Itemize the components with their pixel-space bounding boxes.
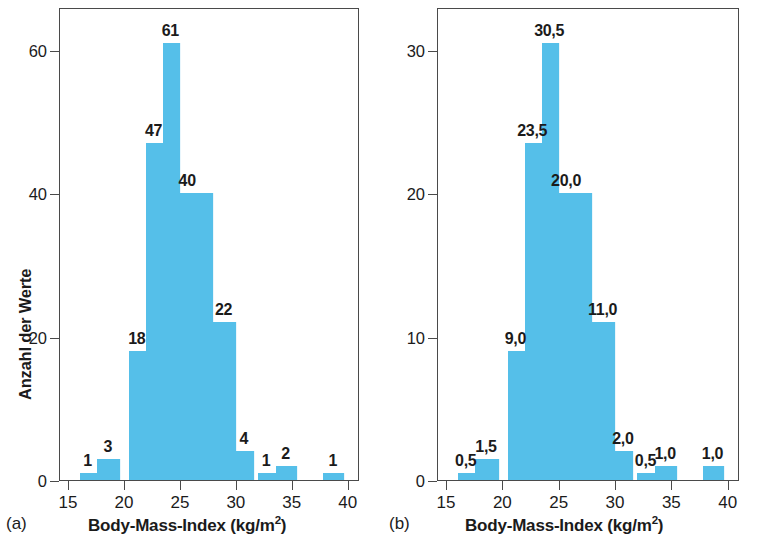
- bar-value-label: 1: [262, 452, 271, 470]
- histogram-bar: [97, 459, 122, 481]
- histogram-bar: [525, 143, 543, 480]
- histogram-bar: [323, 473, 345, 480]
- x-axis-tick: [502, 481, 503, 490]
- histogram-bar: [508, 351, 526, 480]
- panel-a-x-axis-title: Body-Mass-Index (kg/m2): [88, 514, 286, 536]
- bar-value-label: 23,5: [517, 122, 547, 140]
- x-axis-tick: [292, 481, 293, 490]
- bar-value-label: 20,0: [551, 172, 581, 190]
- histogram-bar: [276, 466, 298, 480]
- x-axis-tick-label: 30: [226, 493, 245, 513]
- x-axis-tick-label: 20: [114, 493, 133, 513]
- panel-b-tag: (b): [389, 514, 410, 534]
- panel-b-x-axis-title: Body-Mass-Index (kg/m2): [465, 514, 663, 536]
- bar-value-label: 3: [103, 438, 112, 456]
- bar-value-label: 40: [179, 172, 196, 190]
- histogram-bar: [615, 451, 634, 480]
- histogram-bar: [637, 473, 656, 480]
- histogram-bar: [575, 193, 593, 480]
- histogram-bar: [703, 466, 725, 480]
- bmi-histogram-figure: Anzahl der Werte 13184761402241210204060…: [0, 0, 758, 543]
- y-axis-tick-label: 0: [385, 472, 425, 491]
- bar-value-label: 18: [128, 330, 145, 348]
- panel-a-plot-area: [59, 8, 359, 481]
- histogram-bar: [592, 322, 616, 480]
- histogram-bar: [80, 473, 98, 480]
- x-axis-tick: [236, 481, 237, 490]
- x-axis-tick-label: 40: [338, 493, 357, 513]
- y-axis-tick: [428, 194, 437, 195]
- y-axis-tick: [50, 481, 59, 482]
- bar-value-label: 22: [215, 301, 232, 319]
- x-axis-tick-label: 15: [437, 493, 456, 513]
- bar-value-label: 1,5: [475, 438, 496, 456]
- panel-b: Prozent aller Werte 0,51,59,023,530,520,…: [379, 0, 758, 543]
- x-axis-tick-label: 40: [718, 493, 737, 513]
- histogram-bar: [236, 451, 255, 480]
- y-axis-tick-label: 0: [7, 472, 47, 491]
- bar-value-label: 0,5: [635, 452, 656, 470]
- x-axis-tick-label: 35: [282, 493, 301, 513]
- bar-value-label: 1,0: [655, 445, 676, 463]
- bar-value-label: 1: [328, 452, 337, 470]
- y-axis-tick-label: 20: [7, 328, 47, 347]
- y-axis-tick: [428, 481, 437, 482]
- bar-value-label: 1: [83, 452, 92, 470]
- x-axis-tick-label: 25: [170, 493, 189, 513]
- histogram-bar: [180, 193, 198, 480]
- x-axis-tick: [615, 481, 616, 490]
- bar-value-label: 4: [239, 430, 248, 448]
- bar-value-label: 30,5: [534, 22, 564, 40]
- y-axis-tick-label: 30: [385, 42, 425, 61]
- histogram-bar: [213, 322, 236, 480]
- x-axis-tick: [68, 481, 69, 490]
- bar-value-label: 1,0: [702, 445, 723, 463]
- x-axis-tick-label: 30: [606, 493, 625, 513]
- histogram-bar: [197, 193, 215, 480]
- x-axis-tick: [124, 481, 125, 490]
- bar-value-label: 47: [145, 122, 162, 140]
- histogram-bar: [559, 193, 577, 480]
- bar-value-label: 9,0: [505, 330, 526, 348]
- x-axis-tick: [180, 481, 181, 490]
- x-axis-tick-label: 35: [662, 493, 681, 513]
- histogram-bar: [542, 43, 560, 480]
- histogram-bar: [146, 143, 164, 480]
- histogram-bar: [475, 459, 500, 481]
- y-axis-tick: [50, 338, 59, 339]
- histogram-bar: [655, 466, 677, 480]
- x-axis-tick: [559, 481, 560, 490]
- panel-a-tag: (a): [6, 514, 27, 534]
- y-axis-tick-label: 10: [385, 328, 425, 347]
- x-axis-tick-label: 20: [493, 493, 512, 513]
- y-axis-tick: [428, 338, 437, 339]
- x-axis-tick-label: 25: [549, 493, 568, 513]
- y-axis-tick-label: 20: [385, 185, 425, 204]
- panel-a: Anzahl der Werte 13184761402241210204060…: [0, 0, 379, 543]
- panel-a-bars: [60, 9, 358, 480]
- bar-value-label: 11,0: [588, 301, 617, 319]
- bar-value-label: 2: [281, 445, 290, 463]
- x-axis-tick: [671, 481, 672, 490]
- y-axis-tick: [50, 194, 59, 195]
- panel-b-plot-area: [437, 8, 739, 481]
- y-axis-tick-label: 40: [7, 185, 47, 204]
- bar-value-label: 0,5: [455, 452, 476, 470]
- y-axis-tick: [428, 51, 437, 52]
- histogram-bar: [129, 351, 147, 480]
- histogram-bar: [458, 473, 476, 480]
- bar-value-label: 2,0: [612, 430, 633, 448]
- histogram-bar: [258, 473, 277, 480]
- x-axis-tick: [446, 481, 447, 490]
- histogram-bar: [163, 43, 181, 480]
- bar-value-label: 61: [162, 22, 179, 40]
- y-axis-tick-label: 60: [7, 42, 47, 61]
- y-axis-tick: [50, 51, 59, 52]
- panel-b-bars: [438, 9, 738, 480]
- x-axis-tick: [728, 481, 729, 490]
- x-axis-tick-label: 15: [58, 493, 77, 513]
- x-axis-tick: [348, 481, 349, 490]
